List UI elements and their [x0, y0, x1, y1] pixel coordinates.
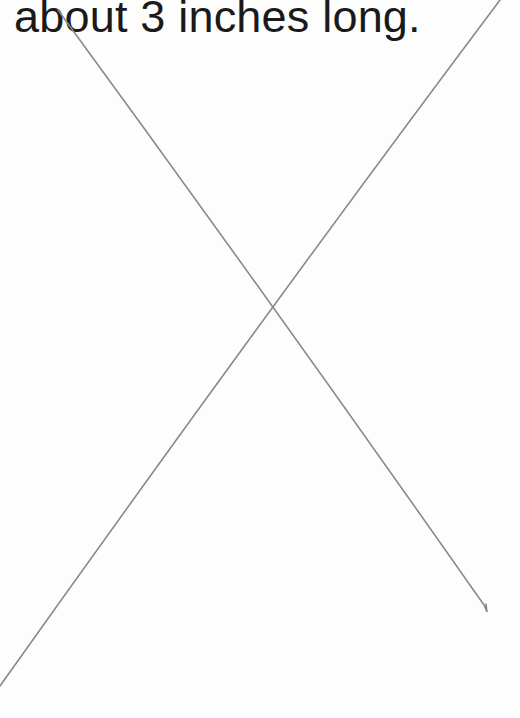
pencil-line-2 — [0, 0, 500, 686]
x-cross-mark — [0, 0, 520, 718]
pencil-line-1 — [58, 10, 487, 612]
